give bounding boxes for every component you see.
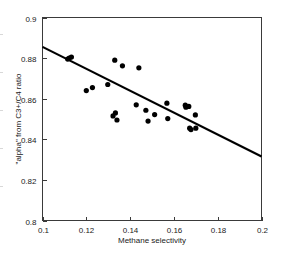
y-tick-label: 0.86 (21, 96, 37, 105)
x-tick-label: 0.18 (211, 226, 227, 235)
y-tick-label: 0.88 (21, 55, 37, 64)
y-tick-label: 0.8 (25, 218, 37, 227)
data-point (145, 118, 150, 123)
data-point (105, 82, 110, 87)
data-point (143, 108, 148, 113)
y-tick-label: 0.9 (25, 15, 37, 24)
data-point (152, 112, 157, 117)
scatter-chart: 0.80.820.840.860.880.9 0.10.120.140.160.… (0, 0, 285, 255)
data-point (193, 112, 198, 117)
x-tick-label: 0.14 (123, 226, 139, 235)
data-point (193, 126, 198, 131)
data-point (84, 88, 89, 93)
y-axis-title: "alpha" from C3+/C4 ratio (14, 73, 23, 164)
y-tick-label: 0.84 (21, 136, 37, 145)
x-tick-label: 0.12 (79, 226, 95, 235)
data-point (134, 102, 139, 107)
data-point (90, 85, 95, 90)
y-tick-label: 0.82 (21, 177, 37, 186)
data-point (188, 127, 193, 132)
data-point (120, 63, 125, 68)
data-point (136, 65, 141, 70)
data-point (186, 104, 191, 109)
x-tick-label: 0.2 (257, 226, 269, 235)
data-point (114, 117, 119, 122)
data-point (113, 110, 118, 115)
x-tick-label: 0.16 (167, 226, 183, 235)
data-point (69, 54, 74, 59)
x-tick-label: 0.1 (38, 226, 50, 235)
chart-canvas: 0.80.820.840.860.880.9 0.10.120.140.160.… (0, 0, 285, 255)
data-point (165, 116, 170, 121)
data-point (164, 101, 169, 106)
data-point (112, 58, 117, 63)
x-axis-title: Methane selectivity (118, 236, 186, 245)
